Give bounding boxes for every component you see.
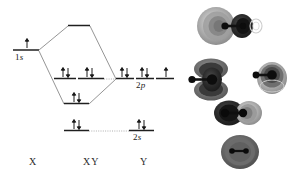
axis-label-xy: XY: [83, 156, 100, 167]
electrons-y-2s: [136, 119, 149, 130]
axis-label-y: Y: [140, 156, 148, 167]
electrons-x-1s: [24, 38, 36, 49]
mo-diagram-figure: 1s 2p 2s X XY Y: [0, 0, 295, 183]
electrons-mo-pi-2: [84, 67, 97, 78]
orbital-pi-right-contour: [253, 62, 287, 94]
orbital-pi-left-contour: [188, 59, 228, 101]
electrons-y-2p-1: [119, 67, 132, 78]
level-label-2p: 2p: [136, 80, 145, 90]
orbital-sigma-bonding-contour: [214, 101, 262, 126]
electrons-y-2p-3: [163, 67, 175, 78]
axis-label-x: X: [29, 156, 37, 167]
electrons-mo-pi-1: [60, 67, 73, 78]
electrons-y-2p-2: [139, 67, 152, 78]
electrons-xy-2s-left: [71, 119, 84, 130]
correlation-line-sigma-2p: [89, 79, 116, 104]
level-label-1s: 1s: [15, 52, 23, 62]
energy-level-bars: [13, 26, 174, 131]
correlation-line-1s-sigma-star: [39, 26, 68, 50]
orbital-2s-contour: [221, 135, 259, 169]
orbital-sigma-star-contour: [197, 7, 262, 45]
level-label-2s: 2s: [133, 132, 141, 142]
electrons-mo-sigma: [71, 92, 84, 103]
correlation-lines-dotted: [89, 79, 129, 131]
